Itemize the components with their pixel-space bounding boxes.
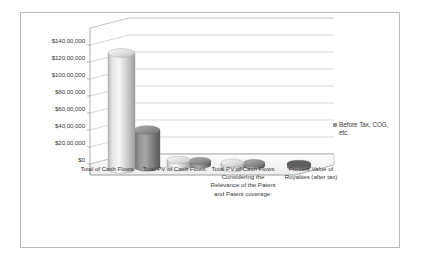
x-axis-category-label: Present Value of Royalties (after tax) — [277, 165, 345, 181]
legend-entry-label: Before Tax, COG, etc. — [339, 121, 399, 138]
chart-legend: Before Tax, COG, etc. — [333, 121, 399, 138]
chart-container: $140,00,000 $120,00,000 $100,00,000 $80,… — [20, 12, 400, 248]
bar-cat1-series1 — [108, 49, 135, 174]
x-axis-category-label: Total PV of Cash Flows Considering the R… — [209, 165, 277, 198]
x-axis-category-label: Total PV of Cash Flows: — [141, 165, 209, 173]
x-axis-category-label: Total of Cash Flows — [73, 165, 141, 173]
legend-square-marker-icon — [333, 123, 337, 127]
x-axis-labels: Total of Cash Flows Total PV of Cash Flo… — [73, 165, 345, 247]
